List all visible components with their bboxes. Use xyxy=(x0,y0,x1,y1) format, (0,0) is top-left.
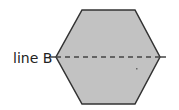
hexagon-diagram: line B xyxy=(0,0,179,110)
speck-mark xyxy=(136,68,138,70)
hexagon-shape xyxy=(56,10,160,104)
line-b-label: line B xyxy=(13,50,52,66)
